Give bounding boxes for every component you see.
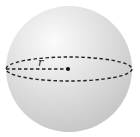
center-dot [66,67,70,71]
radius-label: r [38,56,44,69]
sphere-diagram: r [0,0,140,137]
sphere-figure: r [0,0,140,137]
